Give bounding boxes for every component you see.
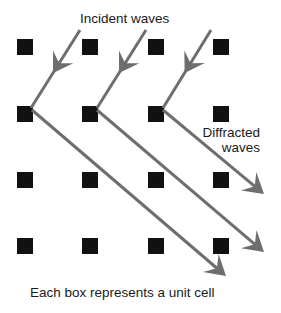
unit-cell-box: [213, 39, 229, 55]
unit-cell-box: [213, 106, 229, 122]
unit-cell-box: [148, 106, 164, 122]
unit-cell-box: [82, 172, 98, 188]
arrowhead-icon: [53, 50, 73, 72]
unit-cell-box: [213, 172, 229, 188]
unit-cell-box: [17, 39, 33, 55]
unit-cell-box: [82, 238, 98, 254]
unit-cell-box: [17, 172, 33, 188]
arrowhead-icon: [184, 50, 204, 72]
incident-waves: [31, 30, 211, 108]
arrowhead-icon: [119, 50, 139, 72]
diffracted-waves-label: Diffracted waves: [202, 125, 260, 155]
caption: Each box represents a unit cell: [30, 286, 215, 300]
diffracted-label-line2: waves: [202, 140, 260, 155]
unit-cell-box: [82, 106, 98, 122]
unit-cell-box: [17, 238, 33, 254]
incident-waves-label: Incident waves: [80, 12, 169, 26]
unit-cell-box: [148, 238, 164, 254]
unit-cell-box: [82, 39, 98, 55]
diffraction-diagram: Incident waves Diffracted waves Each box…: [0, 0, 281, 313]
unit-cell-box: [148, 39, 164, 55]
unit-cell-box: [17, 106, 33, 122]
unit-cell-lattice: [17, 39, 229, 254]
diffracted-label-line1: Diffracted: [202, 125, 260, 140]
unit-cell-box: [213, 238, 229, 254]
diagram-canvas: [0, 0, 281, 313]
unit-cell-box: [148, 172, 164, 188]
